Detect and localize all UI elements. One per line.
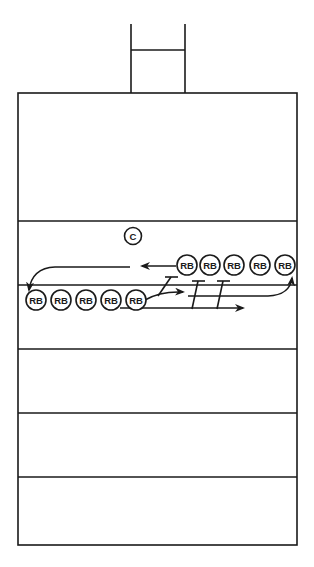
player-label: RB (129, 295, 143, 306)
player-rb: RB (26, 290, 46, 310)
coach-marker: C (125, 228, 142, 245)
player-label: RB (79, 295, 93, 306)
player-label: RB (278, 260, 292, 271)
football-drill-diagram: C RB RB RB RB RB RB RB (0, 0, 314, 567)
top-row-players: RB RB RB RB RB (177, 255, 295, 275)
player-rb: RB (250, 255, 270, 275)
player-rb: RB (177, 255, 197, 275)
player-label: RB (54, 295, 68, 306)
player-rb: RB (126, 290, 146, 310)
player-label: RB (29, 295, 43, 306)
player-rb: RB (275, 255, 295, 275)
player-label: RB (253, 260, 267, 271)
player-rb: RB (101, 290, 121, 310)
player-label: RB (104, 295, 118, 306)
player-label: RB (180, 260, 194, 271)
route-curve-down-left (29, 267, 130, 290)
player-rb: RB (224, 255, 244, 275)
player-rb: RB (51, 290, 71, 310)
bottom-row-players: RB RB RB RB RB (26, 290, 146, 310)
player-rb: RB (200, 255, 220, 275)
route-arrow-right-short (145, 292, 183, 300)
player-label: RB (227, 260, 241, 271)
player-label: RB (203, 260, 217, 271)
player-rb: RB (76, 290, 96, 310)
goalpost (131, 24, 185, 93)
coach-label: C (130, 231, 137, 242)
